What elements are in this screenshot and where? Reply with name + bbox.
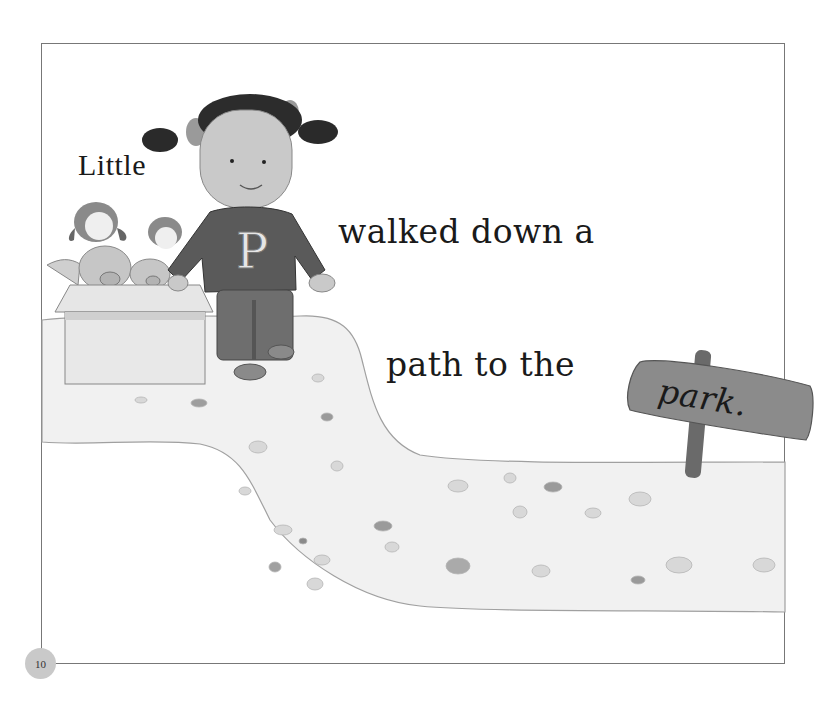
story-text-walked-down-a: walked down a (338, 212, 595, 251)
story-word-little: Little (78, 148, 146, 182)
page-number: 10 (35, 658, 46, 670)
sweater-letter: P (236, 223, 268, 279)
story-text-path-to-the: path to the (386, 345, 575, 384)
toy-box-illustration (47, 202, 213, 384)
page-number-badge: 10 (25, 648, 56, 679)
